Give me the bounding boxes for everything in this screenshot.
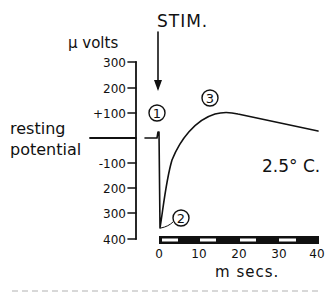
svg-text:10: 10 bbox=[191, 247, 206, 261]
resting-potential-label: resting bbox=[10, 119, 65, 138]
y-tick-labels: 300 200 +100 -100 200 300 400 bbox=[93, 56, 126, 247]
resting-potential-label-2: potential bbox=[10, 140, 81, 159]
x-axis-label: m secs. bbox=[215, 263, 279, 281]
svg-text:0: 0 bbox=[155, 247, 163, 261]
y-axis-label: μ volts bbox=[68, 34, 118, 52]
x-tick-labels: 0 10 20 30 40 bbox=[155, 247, 324, 261]
svg-text:300: 300 bbox=[103, 56, 126, 70]
svg-text:300: 300 bbox=[103, 207, 126, 221]
annotation-1: 1 bbox=[149, 105, 165, 121]
svg-text:40: 40 bbox=[309, 247, 324, 261]
x-axis-time-bar bbox=[159, 236, 319, 244]
annotation-2: 2 bbox=[161, 210, 189, 228]
svg-text:2: 2 bbox=[177, 211, 185, 226]
svg-text:-100: -100 bbox=[99, 157, 126, 171]
stimulus-arrow-icon bbox=[154, 32, 162, 91]
annotation-3: 3 bbox=[202, 90, 218, 106]
temperature-label: 2.5° C. bbox=[262, 156, 320, 176]
svg-text:20: 20 bbox=[231, 247, 246, 261]
svg-text:30: 30 bbox=[271, 247, 286, 261]
svg-text:3: 3 bbox=[206, 91, 214, 106]
action-potential-chart: STIM. μ volts 300 200 +100 -100 200 300 … bbox=[0, 0, 335, 293]
svg-text:400: 400 bbox=[103, 233, 126, 247]
svg-text:200: 200 bbox=[103, 182, 126, 196]
stimulus-label: STIM. bbox=[157, 11, 208, 31]
y-axis bbox=[128, 62, 136, 239]
svg-text:200: 200 bbox=[103, 82, 126, 96]
svg-text:1: 1 bbox=[153, 106, 161, 121]
svg-text:+100: +100 bbox=[93, 107, 126, 121]
